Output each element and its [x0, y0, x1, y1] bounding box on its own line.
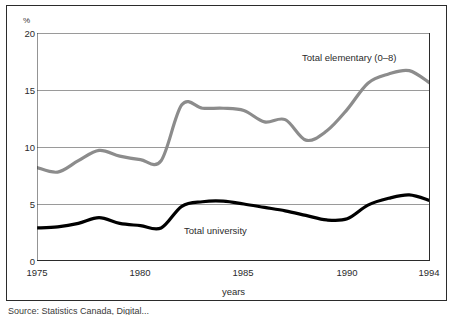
x-tick-label-1994: 1994: [409, 268, 449, 278]
x-axis-title: years: [37, 287, 430, 297]
series-label-elementary: Total elementary (0–8): [302, 53, 397, 63]
x-tick-label-1985: 1985: [223, 268, 263, 278]
series-line-university: [37, 195, 430, 229]
source-note: Source: Statistics Canada, Digital...: [8, 307, 149, 315]
x-tick-label-1990: 1990: [327, 268, 367, 278]
series-lines: [37, 70, 430, 229]
series-line-elementary: [37, 70, 430, 172]
series-label-university: Total university: [184, 226, 247, 236]
figure-container: % 20 15 10 5 0 1975 1980 1985 1990 1994 …: [0, 0, 455, 315]
x-tick-label-1975: 1975: [17, 268, 57, 278]
x-tick-label-1980: 1980: [120, 268, 160, 278]
